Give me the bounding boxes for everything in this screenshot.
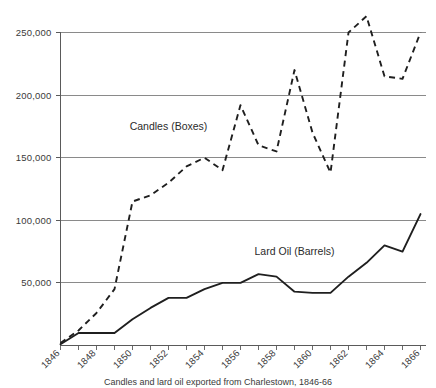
series-label-candles: Candles (Boxes) — [130, 120, 208, 132]
series-line-lard-oil — [61, 214, 421, 344]
series-label-lard-oil: Lard Oil (Barrels) — [255, 245, 335, 257]
x-axis-label: 1846 — [39, 347, 62, 370]
x-axis-labels: 1846184818501852185418561858186018621864… — [39, 347, 422, 370]
x-axis-ticks — [61, 346, 421, 350]
gridlines — [61, 33, 426, 283]
y-axis-labels: 50,000100,000150,000200,000250,000 — [16, 27, 61, 288]
x-axis-label: 1852 — [147, 347, 170, 370]
y-axis-label: 250,000 — [16, 27, 52, 38]
x-axis-label: 1864 — [363, 347, 386, 370]
y-axis-label: 100,000 — [16, 215, 52, 226]
series-line-candles — [61, 16, 421, 343]
x-axis-label: 1866 — [399, 347, 422, 370]
x-axis-label: 1848 — [75, 347, 98, 370]
line-chart: 50,000100,000150,000200,000250,000 18461… — [0, 0, 436, 388]
x-axis-label: 1862 — [327, 347, 350, 370]
series-annotations: Candles (Boxes)Lard Oil (Barrels) — [130, 120, 335, 257]
x-axis-label: 1850 — [111, 347, 134, 370]
chart-container: 50,000100,000150,000200,000250,000 18461… — [0, 0, 436, 388]
x-axis-label: 1860 — [291, 347, 314, 370]
axes — [61, 33, 426, 346]
y-axis-label: 50,000 — [21, 277, 51, 288]
x-axis-label: 1854 — [183, 347, 206, 370]
figure-caption: Candles and lard oil exported from Charl… — [104, 377, 332, 387]
y-axis-label: 150,000 — [16, 152, 52, 163]
caption-text: Candles and lard oil exported from Charl… — [104, 377, 332, 387]
y-axis-label: 200,000 — [16, 90, 52, 101]
x-axis-label: 1858 — [255, 347, 278, 370]
data-series — [61, 16, 421, 344]
x-axis-label: 1856 — [219, 347, 242, 370]
